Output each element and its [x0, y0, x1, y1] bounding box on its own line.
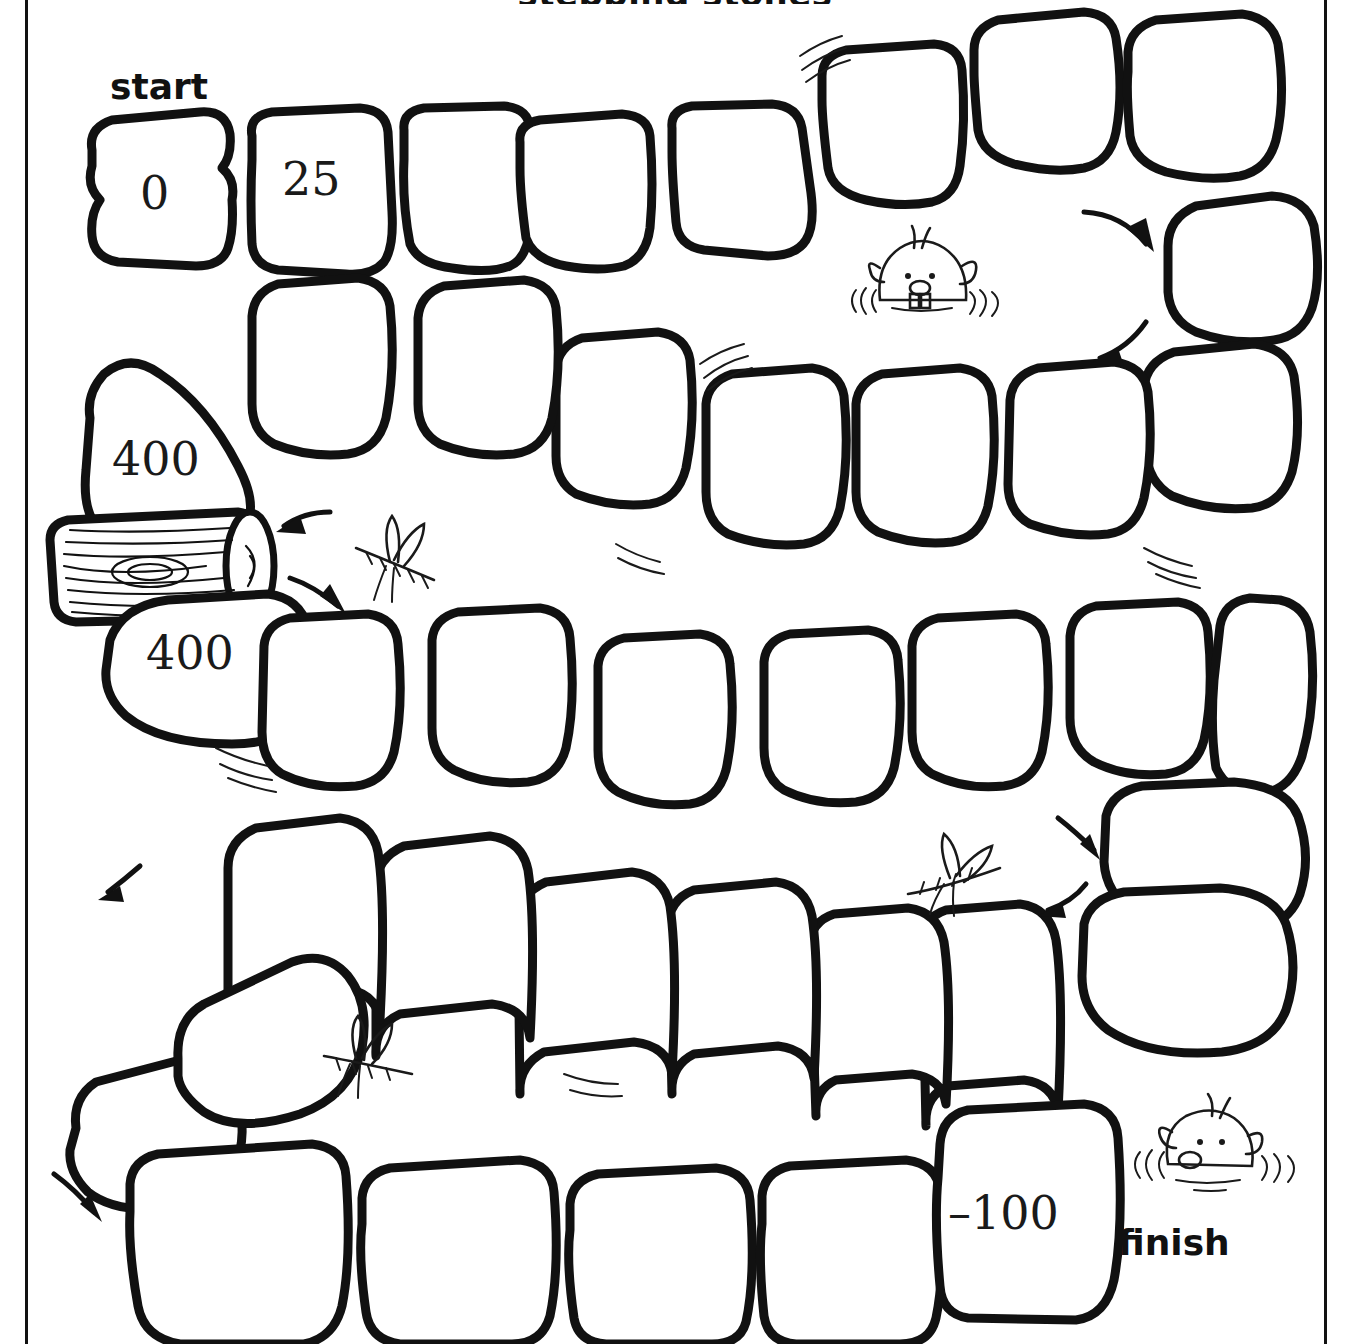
stone-corner-4: [1082, 888, 1293, 1053]
direction-arrow-5: [1058, 818, 1100, 860]
worksheet-page: stepping stones .stone { fill: #ffffff; …: [0, 0, 1350, 1344]
stone-s5: [672, 104, 812, 256]
water-ripple-3: [616, 544, 664, 574]
stone-s34: [178, 958, 364, 1123]
direction-arrow-1: [1084, 212, 1154, 252]
stone-s9: [1008, 362, 1150, 535]
stone-s10: [856, 368, 994, 543]
stone-row-5: [130, 1104, 1121, 1344]
stone-s2: [251, 108, 392, 274]
direction-arrow-6: [1038, 884, 1086, 918]
stone-turn-right-top: [1144, 196, 1318, 509]
stone-row-2: [85, 278, 1150, 548]
finish-label: finish: [1118, 1222, 1230, 1263]
stone-s12: [556, 332, 692, 505]
water-ripple-4: [1144, 548, 1200, 588]
stone-s20: [432, 608, 572, 783]
direction-arrow-7: [98, 866, 140, 902]
dragonfly-1: [356, 516, 434, 602]
stone-s30: [518, 872, 675, 1094]
stone-s24: [1070, 602, 1210, 775]
stone-s29: [668, 882, 817, 1094]
stone-corner-1: [1168, 196, 1318, 342]
stone-s35: [130, 1144, 349, 1344]
stone-s31: [376, 836, 533, 1056]
stone-s37: [569, 1168, 753, 1344]
water-ripple-6: [564, 1074, 622, 1096]
stone-row-1: [90, 12, 1281, 274]
beaver-head-2: [1135, 1094, 1294, 1191]
stone-s7: [974, 12, 1120, 170]
stone-s19: [262, 614, 400, 787]
stone-turn-right-bottom: [1082, 782, 1306, 1053]
direction-arrow-2: [1090, 322, 1146, 366]
board-graphics: .stone { fill: #ffffff; stroke: #111111;…: [0, 0, 1350, 1344]
stone-corner-2: [1144, 344, 1298, 509]
stone-s8: [1127, 14, 1281, 178]
stone-s39: [936, 1104, 1120, 1320]
stone-s3: [404, 106, 532, 271]
start-label: start: [110, 66, 208, 107]
stone-s23: [912, 614, 1048, 787]
direction-arrow-3: [276, 512, 330, 534]
stone-s25: [1212, 598, 1312, 794]
stone-s13: [418, 280, 558, 455]
stone-s14: [252, 278, 392, 455]
stone-s11: [706, 368, 846, 545]
stone-s6: [822, 44, 964, 205]
stone-s21: [598, 634, 732, 805]
stone-s38: [760, 1160, 942, 1344]
stone-s4: [520, 114, 652, 269]
beaver-head-1: [852, 226, 998, 316]
stone-s1: [90, 112, 233, 266]
stone-s22: [764, 630, 900, 803]
stone-s36: [361, 1160, 557, 1344]
stone-row-3: [106, 594, 1313, 805]
